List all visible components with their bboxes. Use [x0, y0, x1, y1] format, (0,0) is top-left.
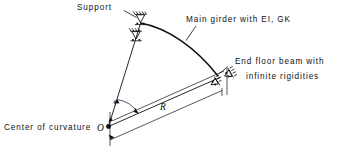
main-girder-label: Main girder with EI, GK — [186, 15, 291, 24]
end-floor-beam-label-line1: End floor beam with — [235, 57, 324, 66]
diagram-canvas: Support Main girder with EI, GK End floo… — [0, 0, 345, 152]
main-girder-arc — [141, 23, 219, 76]
support-label: Support — [77, 3, 112, 12]
origin-point-label: O — [97, 123, 104, 133]
dimension-band — [110, 71, 224, 140]
end-floor-beam-label-line2: infinite rigidities — [246, 72, 319, 81]
radius-label: R — [159, 102, 166, 112]
center-of-curvature-label: Center of curvature — [4, 123, 91, 132]
curved-girder-diagram: Support Main girder with EI, GK End floo… — [0, 0, 345, 152]
subtended-angle-label: φ — [114, 96, 119, 106]
center-of-curvature-point — [106, 124, 111, 129]
support-symbol-second — [129, 28, 142, 41]
leader-main-girder — [186, 26, 196, 41]
support-symbol-top — [133, 11, 147, 24]
